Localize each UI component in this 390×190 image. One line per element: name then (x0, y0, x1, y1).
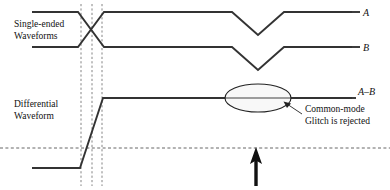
single-ended-group-label: Single-ended Waveforms (14, 19, 64, 42)
signal-label-b: B (363, 42, 369, 53)
differential-group-label-line2: Waveform (14, 111, 58, 123)
waveform-trace-b (32, 12, 352, 47)
glitch-highlight-ellipse (225, 84, 291, 112)
glitch-time-arrow (250, 147, 262, 186)
differential-group-label: Differential Waveform (14, 99, 58, 122)
differential-group-label-line1: Differential (14, 99, 58, 111)
waveform-trace-ab (32, 98, 352, 168)
glitch-rejection-annotation-line2: Glitch is rejected (305, 116, 370, 128)
annotation-leader-line (287, 104, 302, 114)
signal-label-ab: A–B (358, 86, 375, 97)
waveform-trace-a (32, 12, 352, 70)
glitch-rejection-annotation: Common-mode Glitch is rejected (305, 104, 370, 127)
differential-signaling-diagram: Single-ended Waveforms Differential Wave… (0, 0, 390, 190)
single-ended-group-label-line1: Single-ended (14, 19, 64, 31)
single-ended-group-label-line2: Waveforms (14, 31, 64, 43)
signal-label-a: A (363, 7, 369, 18)
glitch-rejection-annotation-line1: Common-mode (305, 104, 370, 116)
